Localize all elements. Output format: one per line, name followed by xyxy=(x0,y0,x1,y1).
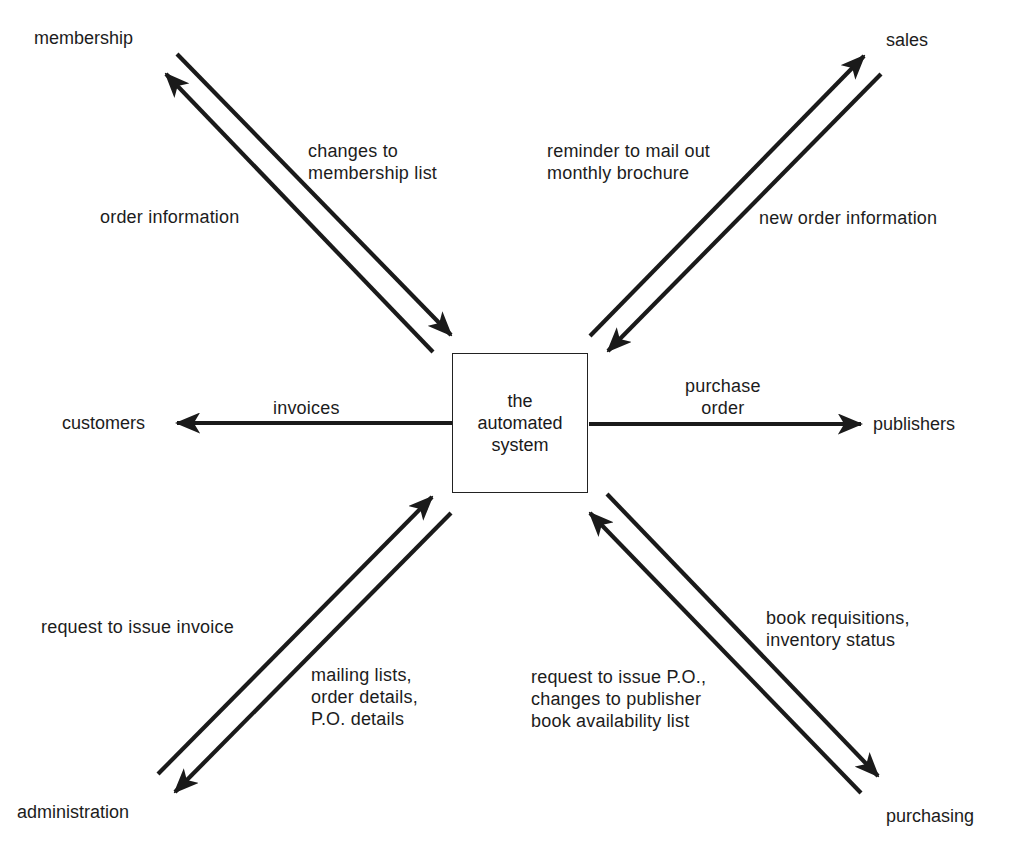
entity-publishers: publishers xyxy=(873,413,955,435)
label-purchase-order: purchase order xyxy=(685,375,761,419)
label-book-requisitions: book requisitions, inventory status xyxy=(766,607,910,651)
label-order-information: order information xyxy=(100,206,239,228)
entity-purchasing: purchasing xyxy=(886,805,974,827)
label-reminder-to-mail-out: reminder to mail out monthly brochure xyxy=(547,140,710,184)
arrow-request-to-issue-po xyxy=(590,513,861,793)
arrow-mailing-lists xyxy=(175,513,451,792)
label-changes-to-membership-list: changes to membership list xyxy=(308,140,437,184)
automated-system-process: the automated system xyxy=(452,353,588,493)
arrow-reminder-to-mail-out xyxy=(590,56,864,336)
arrow-changes-to-membership-list xyxy=(177,54,451,335)
label-request-to-issue-po: request to issue P.O., changes to publis… xyxy=(531,666,706,732)
entity-administration: administration xyxy=(17,801,129,823)
entity-membership: membership xyxy=(34,27,133,49)
label-invoices: invoices xyxy=(273,397,340,419)
label-mailing-lists: mailing lists, order details, P.O. detai… xyxy=(311,664,418,730)
label-new-order-information: new order information xyxy=(759,207,937,229)
entity-sales: sales xyxy=(886,29,928,51)
label-request-to-issue-invoice: request to issue invoice xyxy=(41,616,234,638)
entity-customers: customers xyxy=(62,412,145,434)
process-label: the automated system xyxy=(477,390,562,456)
